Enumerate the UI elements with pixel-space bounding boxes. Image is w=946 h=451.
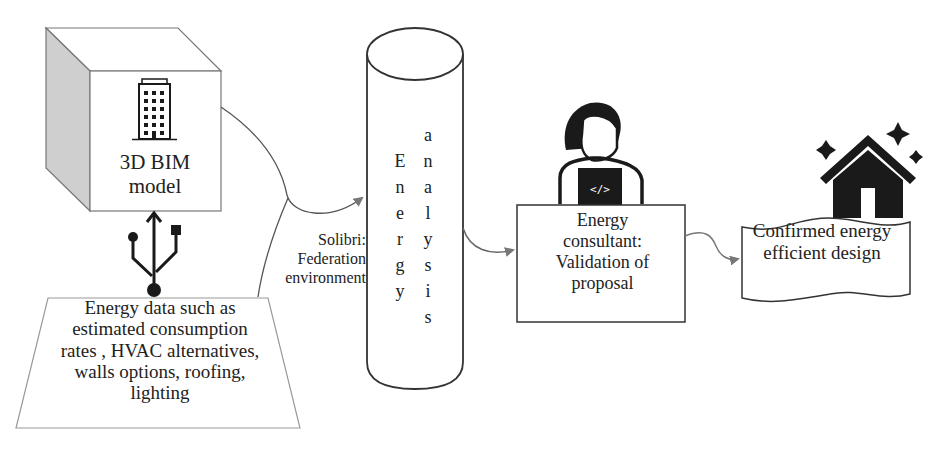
letter: n — [424, 148, 433, 174]
svg-text:</>: </> — [590, 183, 610, 196]
connector-cube-to-analysis — [221, 107, 362, 213]
sparkling-house-icon — [816, 122, 923, 218]
energy-vertical-word: E n e r g y — [392, 148, 408, 304]
energy-data-line: walls options, roofing, — [40, 361, 280, 382]
letter: y — [396, 278, 405, 304]
bim-model-label: 3D BIM model — [90, 150, 220, 198]
energy-data-line: Energy data such as — [40, 297, 280, 318]
confirmed-line: Confirmed energy — [742, 220, 902, 242]
energy-data-line: lighting — [40, 382, 280, 403]
consultant-line: Energy — [520, 210, 685, 231]
analysis-vertical-word: a n a l y s i s — [420, 122, 436, 330]
energy-analysis-cylinder — [367, 28, 463, 389]
letter: E — [395, 148, 406, 174]
consultant-label: Energy consultant: Validation of proposa… — [520, 210, 685, 294]
letter: e — [396, 200, 404, 226]
bim-label-line2: model — [90, 174, 220, 198]
letter: a — [424, 122, 432, 148]
letter: r — [397, 226, 403, 252]
letter: s — [424, 304, 431, 330]
letter: g — [396, 252, 405, 278]
letter: a — [424, 174, 432, 200]
letter: s — [424, 252, 431, 278]
consultant-line: consultant: — [520, 231, 685, 252]
letter: n — [396, 174, 405, 200]
connector-analysis-to-consultant — [463, 228, 513, 252]
developer-at-laptop-icon: </> — [560, 102, 642, 208]
consultant-line: Validation of — [520, 252, 685, 273]
federation-label: Solibri: Federation environment — [266, 231, 366, 288]
letter: i — [425, 278, 430, 304]
energy-data-line: estimated consumption — [40, 318, 280, 339]
federation-line: Solibri: — [266, 231, 366, 250]
energy-data-line: rates , HVAC alternatives, — [40, 340, 280, 361]
confirmed-line: efficient design — [742, 242, 902, 264]
energy-data-label: Energy data such as estimated consumptio… — [40, 297, 280, 403]
letter: l — [425, 200, 430, 226]
connector-consultant-to-confirmed — [685, 233, 738, 260]
usb-icon — [128, 213, 181, 297]
federation-line: Federation — [266, 250, 366, 269]
federation-line: environment — [266, 269, 366, 288]
consultant-line: proposal — [520, 273, 685, 294]
confirmed-label: Confirmed energy efficient design — [742, 220, 902, 264]
bim-label-line1: 3D BIM — [90, 150, 220, 174]
letter: y — [424, 226, 433, 252]
